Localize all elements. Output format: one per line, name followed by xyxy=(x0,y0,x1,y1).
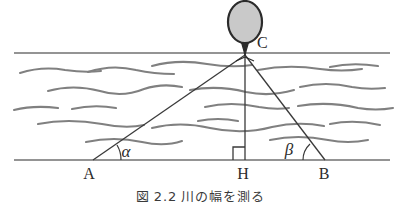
caption-number: 2.2 xyxy=(154,189,178,202)
angle-label-alpha: α xyxy=(122,142,132,161)
wave-stroke xyxy=(198,119,238,121)
wave-stroke xyxy=(152,62,252,66)
caption-prefix: 図 xyxy=(136,189,150,202)
wave-stroke xyxy=(38,121,144,127)
wave-stroke xyxy=(298,104,393,110)
point-label-B: B xyxy=(319,165,330,182)
diagram-canvas: A H B C α β xyxy=(0,0,401,202)
right-angle-marker-icon xyxy=(233,147,245,160)
angle-arc-beta xyxy=(303,144,310,160)
angle-arc-alpha xyxy=(117,145,121,160)
tree-marker-icon xyxy=(228,1,262,61)
caption-text: 川の幅を測る xyxy=(181,189,265,202)
wave-stroke xyxy=(330,122,380,125)
point-label-A: A xyxy=(83,165,95,182)
wave-stroke xyxy=(14,107,58,110)
wave-stroke xyxy=(205,104,289,109)
point-label-C: C xyxy=(257,34,268,51)
angle-label-beta: β xyxy=(284,140,294,159)
wave-stroke xyxy=(72,106,116,109)
wave-stroke xyxy=(48,85,182,94)
wave-stroke xyxy=(258,67,362,71)
figure-river-width-diagram: A H B C α β 図2.2川の幅を測る xyxy=(0,0,401,202)
figure-caption: 図2.2川の幅を測る xyxy=(0,186,401,202)
wave-stroke xyxy=(190,88,294,94)
wave-stroke xyxy=(86,139,182,144)
wave-stroke xyxy=(330,64,378,67)
point-label-H: H xyxy=(237,165,249,182)
wave-stroke xyxy=(300,84,385,89)
river-wave-strokes xyxy=(14,62,393,144)
